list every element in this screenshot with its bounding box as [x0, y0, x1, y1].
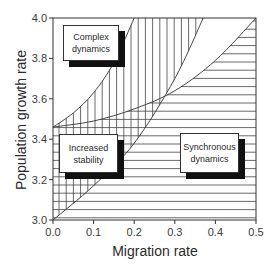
x-axis-title: Migration rate [112, 243, 198, 259]
x-tick-label: 0.4 [208, 226, 223, 238]
y-tick-label: 3.6 [32, 93, 47, 105]
y-tick-label: 3.2 [32, 174, 47, 186]
synchronous-dynamics-label: Synchronous dynamics [180, 133, 239, 173]
label-line: dynamics [64, 43, 118, 55]
x-tick-label: 0.5 [248, 226, 263, 238]
x-tick-label: 0.1 [86, 226, 101, 238]
label-line: Increased [60, 142, 117, 154]
complex-dynamics-label: Complex dynamics [63, 25, 119, 61]
x-tick-label: 0.3 [167, 226, 182, 238]
y-tick-label: 3.0 [32, 214, 47, 226]
x-axis: 0.00.10.20.30.40.5 [45, 220, 263, 238]
y-tick-label: 4.0 [32, 12, 47, 24]
x-tick-label: 0.0 [45, 226, 60, 238]
y-axis: 3.03.23.43.63.84.0 [32, 12, 53, 226]
increased-stability-label: Increased stability [59, 134, 118, 173]
y-axis-title: Population growth rate [13, 50, 29, 190]
y-tick-label: 3.8 [32, 52, 47, 64]
y-tick-label: 3.4 [32, 133, 47, 145]
label-line: stability [60, 154, 117, 166]
label-line: Complex [64, 31, 118, 43]
label-line: dynamics [181, 153, 238, 165]
x-tick-label: 0.2 [127, 226, 142, 238]
label-line: Synchronous [181, 141, 238, 153]
